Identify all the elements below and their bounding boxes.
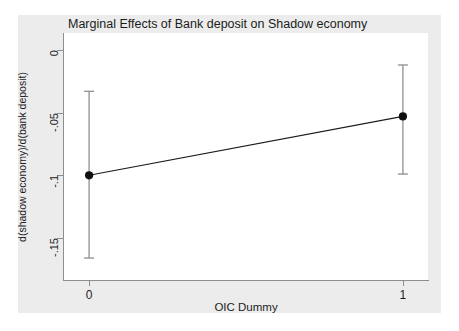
x-axis-tick <box>403 280 404 286</box>
x-axis-tick-label: 0 <box>86 288 93 302</box>
y-axis-title: d(shadow economy)/d(bank deposit) <box>16 72 28 242</box>
y-axis-line <box>63 33 64 281</box>
plot-area <box>64 33 428 280</box>
graph-region <box>18 15 441 313</box>
x-axis-tick-label: 1 <box>400 288 407 302</box>
y-axis-tick-label: -.15 <box>48 238 60 257</box>
x-axis-title: OIC Dummy <box>214 301 277 313</box>
x-axis-line <box>63 280 429 281</box>
y-axis-tick-label: -.05 <box>48 113 60 132</box>
y-axis-tick-label: -.1 <box>48 175 60 188</box>
x-axis-tick <box>89 280 90 286</box>
y-axis-tick-label: 0 <box>48 50 60 56</box>
page-header <box>431 1 445 7</box>
chart-title: Marginal Effects of Bank deposit on Shad… <box>68 17 367 31</box>
